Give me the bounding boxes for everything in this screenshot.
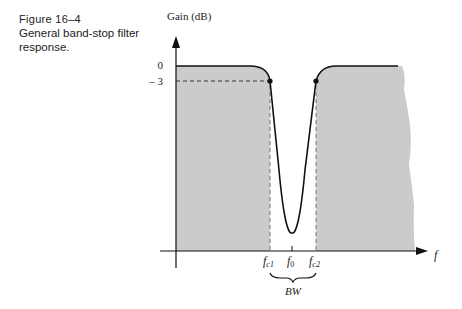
svg-text:f0: f0 (287, 254, 294, 269)
x-axis-arrow-icon (416, 247, 428, 255)
left-passband-shade (176, 66, 270, 251)
svg-text:fc2: fc2 (309, 254, 320, 269)
bw-brace (270, 273, 316, 282)
y-tick-minus3: – 3 (148, 75, 163, 87)
band-stop-chart: Gain (dB) 0 – 3 f fc1 f0 fc2 BW (0, 0, 462, 309)
x-tick-f0: f0 (287, 254, 294, 269)
x-axis-label: f (434, 248, 439, 262)
y-tick-0: 0 (158, 59, 164, 71)
x-tick-fc2: fc2 (309, 254, 320, 269)
right-passband-shade (316, 66, 415, 251)
y-axis-arrow-icon (172, 36, 180, 48)
y-axis-label: Gain (dB) (167, 10, 212, 23)
fc2-point (313, 78, 318, 83)
bw-label: BW (285, 285, 302, 297)
svg-text:fc1: fc1 (263, 254, 274, 269)
x-tick-fc1: fc1 (263, 254, 274, 269)
fc1-point (267, 78, 272, 83)
